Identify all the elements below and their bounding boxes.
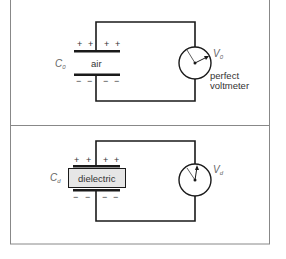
panel-air: + + + + − − − − C0 air V0 perfect voltme… [55, 22, 249, 101]
charge-minus: − [73, 192, 78, 202]
charge-plus: + [103, 155, 108, 165]
capacitor-label: Cd [50, 172, 61, 184]
charge-plus: + [104, 39, 109, 49]
voltmeter-icon [179, 164, 211, 196]
outer-frame [11, 0, 270, 244]
voltage-label: Vd [213, 164, 224, 176]
charge-minus: − [113, 192, 118, 202]
charge-minus: − [87, 76, 92, 86]
charge-plus: + [115, 39, 120, 49]
capacitor-dielectric-diagram: + + + + − − − − C0 air V0 perfect voltme… [0, 0, 286, 259]
capacitor-top-plate [74, 50, 120, 53]
charge-plus: + [86, 155, 91, 165]
charge-plus: + [88, 39, 93, 49]
voltmeter-icon [179, 47, 211, 79]
medium-label: air [91, 58, 102, 69]
capacitor-top-plate [73, 165, 120, 168]
capacitor-label: C0 [55, 58, 66, 70]
charge-minus: − [103, 76, 108, 86]
wire-top [96, 22, 195, 51]
charge-minus: − [76, 76, 81, 86]
charge-plus: + [77, 39, 82, 49]
medium-label: dielectric [78, 173, 116, 184]
wire-top [96, 141, 195, 166]
wire-bottom [96, 75, 195, 101]
charge-minus: − [102, 192, 107, 202]
meter-label-line2: voltmeter [210, 80, 249, 91]
charge-plus: + [74, 155, 79, 165]
charge-minus: − [85, 192, 90, 202]
charge-minus: − [114, 76, 119, 86]
panel-dielectric: dielectric + + + + − − − − Cd Vd [50, 141, 224, 221]
charge-plus: + [114, 155, 119, 165]
wire-bottom [96, 191, 195, 221]
voltage-label: V0 [213, 48, 224, 60]
